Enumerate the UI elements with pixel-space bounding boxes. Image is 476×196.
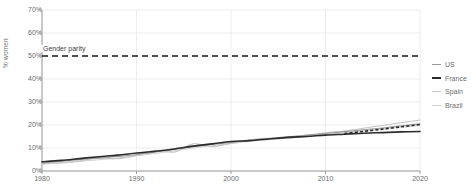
line-chart: % women 70%60%50%40%30%20%10%0% Gender p… [0,0,476,196]
legend-swatch-icon [432,91,441,92]
legend-label: Spain [445,88,463,95]
x-tick-label: 1980 [22,175,62,182]
legend-item-france[interactable]: France [432,72,476,86]
legend-label: Brazil [445,102,463,109]
legend-item-spain[interactable]: Spain [432,85,476,99]
x-tick-label: 1990 [117,175,157,182]
legend-swatch-icon [432,105,441,106]
legend-item-brazil[interactable]: Brazil [432,99,476,113]
legend-label: France [445,75,467,82]
x-tick-label: 2020 [400,175,440,182]
plot-area [0,0,476,196]
legend-swatch-icon [432,64,441,65]
gender-parity-annotation: Gender parity [41,45,87,52]
legend-swatch-icon [432,77,441,79]
legend-label: US [445,61,455,68]
chart-legend: USFranceSpainBrazil [432,58,476,112]
legend-item-us[interactable]: US [432,58,476,72]
x-tick-label: 2000 [211,175,251,182]
x-tick-label: 2010 [306,175,346,182]
